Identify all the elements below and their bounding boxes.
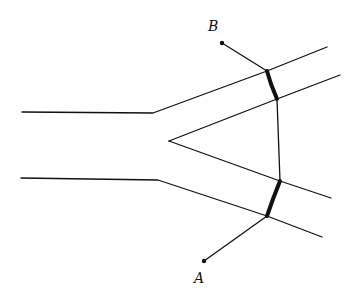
point-dot-a (202, 259, 206, 263)
lower-thick (267, 181, 280, 216)
diagram-canvas: B A (0, 0, 356, 300)
diagram-svg (0, 0, 356, 300)
prism-lower-edge (169, 141, 331, 198)
ray-A (204, 216, 267, 261)
upper-left-wall (22, 47, 327, 113)
point-label-b: B (208, 19, 218, 33)
prism-upper-edge (169, 75, 340, 141)
upper-thick (267, 71, 277, 99)
point-dot-b (220, 41, 224, 45)
point-label-a: A (194, 271, 204, 285)
ray-B (222, 43, 267, 71)
prism-right-edge (277, 99, 280, 181)
